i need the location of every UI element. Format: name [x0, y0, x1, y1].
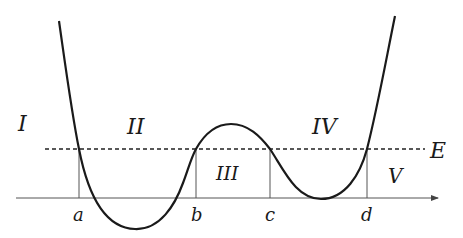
region-label-IV: IV — [311, 114, 339, 139]
point-label-d: d — [361, 204, 373, 225]
region-label-I: I — [17, 111, 28, 136]
region-label-III: III — [215, 162, 239, 184]
region-label-V: V — [388, 164, 405, 188]
potential-curve — [59, 16, 395, 229]
diagram-canvas: I II III IV V a b c d E — [0, 0, 463, 238]
point-label-b: b — [191, 204, 203, 225]
point-label-c: c — [265, 204, 275, 225]
energy-label: E — [429, 138, 446, 163]
region-label-II: II — [126, 114, 146, 139]
point-label-a: a — [73, 204, 84, 225]
potential-diagram: I II III IV V a b c d E — [0, 0, 463, 238]
